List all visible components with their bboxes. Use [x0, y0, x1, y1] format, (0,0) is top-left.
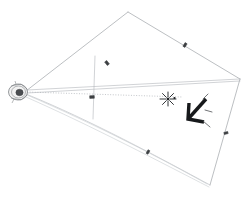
frustum-edge-bottom	[26, 94, 210, 185]
optical-ray-upper	[27, 79, 240, 90]
star-companion-dot	[173, 97, 175, 99]
diagram-canvas	[0, 0, 249, 200]
camera-icon	[9, 81, 28, 103]
arrow-barb-upper	[203, 94, 208, 99]
projection-diagram-svg	[0, 0, 249, 200]
optical-ray-lower	[27, 81, 240, 93]
arrow-shaft	[189, 99, 206, 118]
tick-lower-ray	[146, 150, 150, 155]
star-ray-nw	[163, 94, 167, 98]
lower-ray-secondary	[26, 97, 209, 187]
star-target-marker	[160, 92, 176, 106]
image-plane-vertical	[93, 56, 95, 119]
camera-lens	[16, 89, 23, 95]
principal-axis-dotted	[27, 92, 182, 97]
tick-image-plane	[90, 96, 95, 99]
arrow-barb-lower	[203, 121, 210, 127]
lower-ray-tertiary	[27, 95, 207, 184]
lower-ray-pair	[26, 95, 209, 187]
frustum-edge-top-left	[26, 12, 128, 91]
frustum-outline	[26, 12, 240, 185]
star-ray-sw	[163, 101, 167, 105]
bold-arrow-annotation	[188, 94, 212, 127]
image-plane	[93, 56, 95, 119]
camera-top-fin	[15, 81, 16, 84]
tick-upper-left-edge	[105, 60, 110, 65]
star-ray-se	[170, 101, 174, 105]
tick-right-lower-edge	[224, 131, 228, 134]
arrow-barb-mid	[205, 110, 212, 112]
star-center-dot	[167, 98, 170, 101]
camera-mount-stem	[12, 99, 14, 103]
